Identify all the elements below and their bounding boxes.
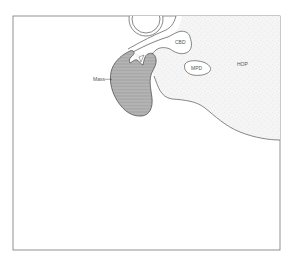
vessel-inner-circle bbox=[132, 5, 160, 33]
label-cbd: CBD bbox=[175, 39, 186, 45]
anatomical-diagram: CBD MPD HOP Mass bbox=[0, 0, 293, 260]
label-hop: HOP bbox=[237, 61, 249, 67]
label-mass: Mass bbox=[93, 76, 105, 82]
label-mpd: MPD bbox=[191, 65, 203, 71]
